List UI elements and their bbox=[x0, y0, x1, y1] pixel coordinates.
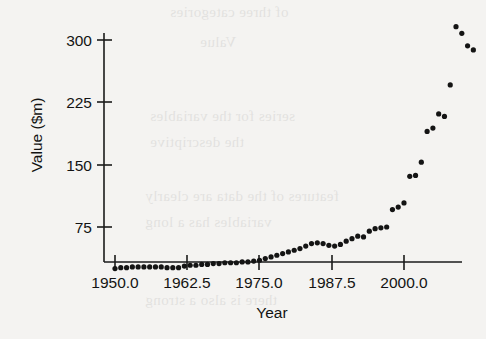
data-point bbox=[153, 264, 158, 269]
data-point bbox=[425, 129, 430, 134]
data-point bbox=[124, 265, 129, 270]
data-point bbox=[442, 114, 447, 119]
data-point bbox=[199, 262, 204, 267]
data-point bbox=[384, 224, 389, 229]
data-point bbox=[141, 264, 146, 269]
data-point bbox=[222, 260, 227, 265]
x-tick-label-1950: 1950.0 bbox=[91, 274, 139, 291]
data-point bbox=[378, 225, 383, 230]
data-point bbox=[320, 241, 325, 246]
data-point bbox=[355, 234, 360, 239]
x-tick-label-1975: 1975.0 bbox=[235, 274, 283, 291]
data-point bbox=[419, 160, 424, 165]
data-point bbox=[453, 24, 458, 29]
data-point bbox=[471, 47, 476, 52]
y-tick-label-75: 75 bbox=[75, 219, 92, 236]
x-tick-label-2000: 2000.0 bbox=[380, 274, 428, 291]
data-point bbox=[268, 254, 273, 259]
data-point bbox=[280, 251, 285, 256]
y-tick-label-300: 300 bbox=[66, 32, 92, 49]
data-point bbox=[176, 265, 181, 270]
data-point bbox=[286, 249, 291, 254]
data-point bbox=[436, 111, 441, 116]
data-point bbox=[309, 241, 314, 246]
data-point bbox=[159, 264, 164, 269]
data-point bbox=[465, 43, 470, 48]
data-point bbox=[407, 174, 412, 179]
data-point bbox=[234, 260, 239, 265]
data-point bbox=[373, 226, 378, 231]
data-point bbox=[112, 266, 117, 271]
data-point bbox=[292, 248, 297, 253]
x-tick-label-1987: 1987.5 bbox=[308, 274, 355, 291]
x-axis-title: Year bbox=[256, 304, 287, 321]
data-point bbox=[315, 240, 320, 245]
data-point bbox=[211, 261, 216, 266]
data-point bbox=[413, 173, 418, 178]
data-point bbox=[401, 200, 406, 205]
data-point bbox=[332, 244, 337, 249]
data-point bbox=[274, 253, 279, 258]
y-tick-label-150: 150 bbox=[66, 157, 92, 174]
y-tick-label-225: 225 bbox=[66, 94, 92, 111]
data-point bbox=[245, 259, 250, 264]
data-point bbox=[170, 265, 175, 270]
data-point bbox=[118, 265, 123, 270]
y-axis: 300 225 150 75 Value ($m) bbox=[28, 32, 112, 262]
data-point bbox=[263, 256, 268, 261]
data-point bbox=[349, 236, 354, 241]
figure-root: of three categories Value series for the… bbox=[0, 0, 486, 339]
scatter-plot: 300 225 150 75 Value ($m) 1950.0 1962.5 … bbox=[0, 0, 486, 339]
data-point bbox=[361, 234, 366, 239]
data-point bbox=[344, 239, 349, 244]
data-point bbox=[193, 263, 198, 268]
data-point bbox=[130, 264, 135, 269]
data-point bbox=[182, 263, 187, 268]
data-point bbox=[228, 260, 233, 265]
data-point bbox=[251, 258, 256, 263]
data-point bbox=[367, 229, 372, 234]
data-point bbox=[216, 261, 221, 266]
data-point bbox=[188, 263, 193, 268]
data-point bbox=[257, 258, 262, 263]
x-tick-label-1962: 1962.5 bbox=[163, 274, 210, 291]
data-point bbox=[164, 265, 169, 270]
data-point bbox=[303, 244, 308, 249]
data-point bbox=[205, 262, 210, 267]
data-point bbox=[326, 243, 331, 248]
data-point bbox=[136, 264, 141, 269]
data-point bbox=[459, 31, 464, 36]
data-point bbox=[396, 204, 401, 209]
y-axis-title: Value ($m) bbox=[28, 98, 45, 173]
data-point bbox=[430, 126, 435, 131]
data-point bbox=[147, 264, 152, 269]
data-point bbox=[448, 82, 453, 87]
data-point bbox=[338, 242, 343, 247]
data-point bbox=[297, 246, 302, 251]
data-point bbox=[390, 207, 395, 212]
data-point-series bbox=[112, 24, 476, 271]
data-point bbox=[240, 259, 245, 264]
x-axis: 1950.0 1962.5 1975.0 1987.5 2000.0 Year bbox=[91, 255, 462, 321]
